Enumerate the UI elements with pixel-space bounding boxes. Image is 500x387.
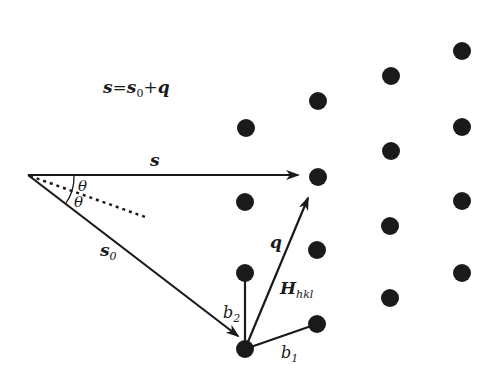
b1-subscript: 1 — [291, 352, 298, 365]
lattice-point — [237, 119, 255, 137]
s0-label-main: s — [99, 240, 110, 260]
equation-plus: + — [143, 77, 157, 97]
s0-vector-label: s0 — [99, 240, 117, 263]
equation-q: q — [158, 77, 170, 97]
lattice-points — [236, 42, 471, 358]
lattice-point — [308, 241, 326, 259]
lattice-point — [453, 118, 471, 136]
lattice-point — [381, 289, 399, 307]
lattice-point — [381, 217, 399, 235]
h-main: H — [279, 278, 297, 298]
lattice-point — [309, 92, 327, 110]
equation: s=s0+q — [102, 77, 170, 100]
lattice-point — [236, 264, 254, 282]
s0-vector — [28, 175, 238, 336]
lattice-point — [453, 192, 471, 210]
b2-subscript: 2 — [232, 312, 240, 325]
theta-arc-upper — [72, 175, 74, 191]
reciprocal-lattice-diagram: s=s0+q s s0 θ θ b2 b1 q Hhkl — [0, 0, 500, 387]
s-vector-label: s — [149, 150, 160, 170]
lattice-point — [236, 193, 254, 211]
equation-s0: s — [126, 77, 137, 97]
theta-arc-lower — [66, 191, 72, 203]
lattice-point — [453, 264, 471, 282]
lattice-point — [308, 315, 326, 333]
b1-label: b1 — [281, 343, 298, 365]
h-subscript: hkl — [296, 288, 314, 301]
lattice-point — [382, 67, 400, 85]
b2-label: b2 — [223, 303, 240, 325]
equation-s: s — [102, 77, 113, 97]
h-hkl-label: Hhkl — [279, 278, 314, 301]
b2-main: b — [223, 303, 233, 322]
bisector-dotted-line — [30, 176, 148, 218]
s0-label-subscript: 0 — [110, 250, 117, 263]
q-vector-label: q — [270, 232, 282, 252]
lattice-point — [309, 168, 327, 186]
b1-main: b — [281, 343, 291, 362]
h-hkl-vector — [245, 198, 308, 349]
lattice-point — [236, 340, 254, 358]
lattice-point — [382, 142, 400, 160]
lattice-point — [453, 42, 471, 60]
equation-equals: = — [113, 77, 127, 97]
theta-lower-label: θ — [74, 193, 83, 211]
equation-s0-subscript: 0 — [136, 87, 143, 100]
